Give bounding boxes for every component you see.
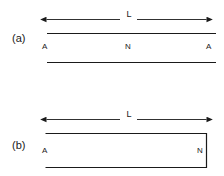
panel-a-label: (a) (12, 32, 25, 44)
panel-a-dimension-label: L (119, 9, 139, 19)
acoustic-tube-diagram: (a) L A N A (b) L A N (0, 0, 224, 176)
panel-a-node-label-right: A (206, 42, 211, 51)
panel-b-dimension-label: L (119, 109, 139, 119)
panel-b-label: (b) (12, 139, 25, 151)
panel-b-node-label-right: N (197, 146, 203, 155)
diagram-vector-layer (0, 0, 224, 176)
panel-a-node-label-left: A (42, 42, 47, 51)
panel-a-tube-walls (47, 34, 216, 63)
panel-b-tube-walls (46, 134, 207, 168)
panel-b-node-label-left: A (42, 146, 47, 155)
panel-a-node-label-center: N (125, 42, 131, 51)
